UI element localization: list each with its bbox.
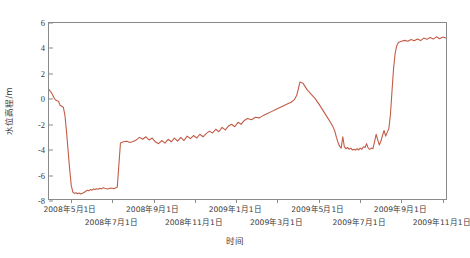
y-tick-label: -2	[38, 120, 49, 129]
plot-area: 6420-2-4-6-8	[48, 22, 447, 200]
x-tick-mark	[236, 199, 237, 203]
y-tick-mark	[49, 124, 53, 125]
y-tick-mark	[49, 23, 53, 24]
y-tick-mark	[49, 48, 53, 49]
y-tick-mark	[49, 150, 53, 151]
x-tick-label: 2008年7月1日	[85, 219, 138, 227]
y-tick-label: 4	[41, 44, 49, 53]
y-tick-mark	[49, 201, 53, 202]
y-tick-mark	[49, 175, 53, 176]
x-tick-label: 2009年7月1日	[333, 219, 386, 227]
x-tick-label: 2009年1月1日	[209, 206, 262, 214]
x-tick-label: 2009年5月1日	[291, 206, 344, 214]
x-tick-mark	[195, 199, 196, 203]
x-tick-label: 2008年9月1日	[126, 206, 179, 214]
y-tick-label: 2	[41, 70, 49, 79]
x-tick-label: 2009年9月1日	[374, 206, 427, 214]
x-tick-mark	[112, 199, 113, 203]
y-tick-label: 0	[41, 95, 49, 104]
x-axis-title: 时间	[226, 234, 244, 246]
x-tick-mark	[401, 199, 402, 203]
y-tick-label: -4	[38, 146, 49, 155]
y-tick-mark	[49, 73, 53, 74]
x-tick-label: 2008年5月1日	[43, 206, 96, 214]
y-tick-mark	[49, 99, 53, 100]
x-tick-label: 2008年11月1日	[165, 219, 223, 227]
x-tick-mark	[71, 199, 72, 203]
chart-figure: 水位高程/m 6420-2-4-6-8 时间 2008年5月1日2008年7月1…	[0, 0, 470, 258]
x-tick-label: 2009年3月1日	[250, 219, 303, 227]
y-tick-label: -8	[38, 197, 49, 206]
y-axis-title: 水位高程/m	[2, 87, 14, 134]
x-tick-mark	[443, 199, 444, 203]
x-tick-mark	[277, 199, 278, 203]
y-tick-label: -6	[38, 171, 49, 180]
x-tick-mark	[154, 199, 155, 203]
x-tick-mark	[360, 199, 361, 203]
x-tick-label: 2009年11月1日	[413, 219, 470, 227]
x-tick-mark	[319, 199, 320, 203]
water-level-series	[49, 23, 446, 199]
y-tick-label: 6	[41, 19, 49, 28]
